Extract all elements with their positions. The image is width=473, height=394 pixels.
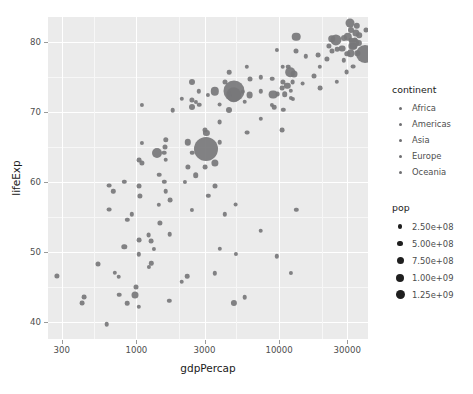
- data-point: [246, 92, 253, 99]
- legend-point-icon: [399, 171, 402, 174]
- data-point: [294, 49, 299, 54]
- y-tick-mark: [44, 252, 48, 253]
- y-tick-label: 70: [20, 107, 41, 117]
- data-point: [137, 193, 142, 198]
- x-tick-mark: [347, 340, 348, 344]
- legend-item-pop[interactable]: 1.00e+09: [392, 269, 473, 286]
- legend-item-pop[interactable]: 5.00e+08: [392, 235, 473, 252]
- legend-continent: continent AfricaAmericasAsiaEuropeOceani…: [392, 84, 473, 180]
- legend-key-swatch: [392, 287, 408, 303]
- data-point: [341, 35, 347, 41]
- x-tick-label: 1000: [125, 345, 147, 355]
- data-point: [279, 128, 284, 133]
- gridline-vertical: [347, 17, 348, 339]
- data-point: [125, 301, 130, 306]
- data-point: [163, 137, 168, 142]
- gridline-horizontal-minor: [48, 287, 368, 288]
- y-tick-label: 60: [20, 177, 41, 187]
- legend-item-continent[interactable]: Asia: [392, 132, 473, 148]
- y-tick-mark: [44, 322, 48, 323]
- data-point: [211, 159, 218, 166]
- legend-item-pop[interactable]: 1.25e+09: [392, 286, 473, 303]
- data-point: [106, 183, 111, 188]
- data-point: [189, 79, 195, 85]
- legend-size-icon: [398, 224, 402, 228]
- data-point: [317, 86, 322, 91]
- data-point: [217, 140, 222, 145]
- legend-item-continent[interactable]: Africa: [392, 100, 473, 116]
- data-point: [82, 295, 87, 300]
- data-point: [206, 93, 210, 97]
- data-point: [258, 89, 262, 93]
- gridline-vertical-minor: [236, 17, 237, 339]
- legend-item-pop[interactable]: 2.50e+08: [392, 218, 473, 235]
- legend-item-pop[interactable]: 7.50e+08: [392, 252, 473, 269]
- gridline-horizontal-minor: [48, 217, 368, 218]
- legend-item-label: 5.00e+08: [412, 239, 453, 249]
- legend-point-icon: [399, 107, 402, 110]
- data-point: [157, 172, 162, 177]
- data-point: [131, 291, 138, 298]
- data-point: [104, 322, 109, 327]
- y-tick-label: 40: [20, 317, 41, 327]
- x-tick-label: 10000: [265, 345, 292, 355]
- scatter-plot-figure: 300100030001000030000 4050607080 gdpPerc…: [0, 0, 473, 394]
- legend-continent-title: continent: [392, 84, 473, 95]
- data-point: [348, 27, 354, 33]
- legend-size-icon: [397, 257, 404, 264]
- data-point: [96, 262, 101, 267]
- data-point: [258, 228, 263, 233]
- data-point: [111, 189, 115, 193]
- data-point: [272, 105, 277, 110]
- data-point: [137, 157, 142, 162]
- legend-item-label: Oceania: [412, 167, 446, 177]
- data-point: [342, 58, 346, 62]
- legend-pop-items: 2.50e+085.00e+087.50e+081.00e+091.25e+09: [392, 218, 473, 303]
- gridline-horizontal: [48, 252, 368, 253]
- data-point: [356, 32, 362, 38]
- data-point: [197, 89, 201, 93]
- y-tick-mark: [44, 112, 48, 113]
- x-tick-label: 300: [54, 345, 70, 355]
- data-point: [203, 129, 209, 135]
- data-point: [193, 172, 199, 178]
- y-tick-label: 50: [20, 247, 41, 257]
- data-point: [117, 293, 122, 298]
- data-point: [167, 298, 171, 302]
- data-point: [163, 144, 168, 149]
- data-point: [203, 164, 208, 169]
- gridline-vertical-minor: [94, 17, 95, 339]
- legend-item-label: Africa: [412, 103, 436, 113]
- data-point: [152, 148, 162, 158]
- data-point: [245, 64, 249, 68]
- legend-point-icon: [399, 155, 402, 158]
- data-point: [259, 116, 263, 120]
- legend-item-continent[interactable]: Europe: [392, 148, 473, 164]
- legend-key-swatch: [392, 270, 408, 286]
- data-point: [222, 80, 227, 85]
- x-axis-label: gdpPercap: [48, 362, 368, 374]
- legend-item-label: 2.50e+08: [412, 222, 453, 232]
- data-point: [211, 87, 219, 95]
- legend-item-continent[interactable]: Americas: [392, 116, 473, 132]
- data-point: [106, 207, 111, 212]
- data-point: [242, 295, 247, 300]
- data-point: [356, 45, 369, 63]
- data-point: [162, 179, 166, 183]
- data-point: [241, 90, 246, 95]
- legend-item-continent[interactable]: Oceania: [392, 164, 473, 180]
- data-point: [290, 80, 295, 85]
- data-point: [122, 179, 126, 183]
- legend-item-label: 1.00e+09: [412, 273, 453, 283]
- x-tick-mark: [136, 340, 137, 344]
- data-point: [329, 49, 334, 54]
- data-point: [270, 76, 275, 81]
- data-point: [335, 80, 339, 84]
- legend-size-icon: [397, 241, 403, 247]
- x-tick-mark: [205, 340, 206, 344]
- data-point: [189, 104, 195, 110]
- data-point: [213, 183, 218, 188]
- data-point: [140, 141, 144, 145]
- data-point: [217, 102, 222, 107]
- data-point: [286, 68, 296, 78]
